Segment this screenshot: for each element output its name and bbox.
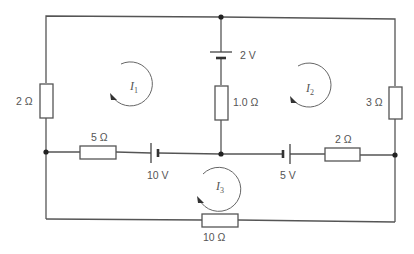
label-battery-10v: 10 V [147, 170, 169, 181]
label-battery-2v: 2 V [240, 50, 256, 61]
resistor-middle-1ohm [215, 86, 228, 120]
node-middle [218, 151, 223, 156]
battery-2v [210, 52, 232, 58]
label-resistor-left: 2 Ω [16, 96, 33, 107]
resistor-left-2ohm [40, 84, 53, 118]
label-current-i3: I3 [216, 180, 224, 195]
resistor-10ohm [202, 214, 238, 227]
circuit-svg [0, 0, 414, 254]
resistor-right-3ohm [389, 87, 402, 119]
label-battery-5v: 5 V [280, 170, 296, 181]
circuit-diagram: 2 Ω 1.0 Ω 3 Ω 5 Ω 2 Ω 10 Ω 2 V 10 V 5 V … [0, 0, 414, 254]
resistor-5ohm [80, 146, 116, 159]
label-resistor-5ohm: 5 Ω [91, 132, 108, 143]
battery-5v [283, 144, 290, 164]
label-resistor-2ohm: 2 Ω [335, 134, 352, 145]
label-resistor-middle: 1.0 Ω [233, 97, 258, 108]
node-right [392, 152, 397, 157]
battery-10v [151, 143, 158, 163]
node-top [218, 14, 223, 19]
node-left [43, 149, 48, 154]
label-current-i2: I2 [306, 82, 314, 97]
label-resistor-10ohm: 10 Ω [203, 232, 225, 243]
label-current-i1: I1 [130, 80, 138, 95]
label-resistor-right: 3 Ω [366, 97, 383, 108]
resistor-2ohm-right [325, 148, 360, 161]
